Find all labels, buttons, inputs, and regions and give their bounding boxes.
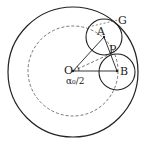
label-angle: α₀/2: [66, 76, 84, 86]
label-a: A: [96, 25, 106, 38]
geometry-diagram: A B O P G α₀/2: [0, 0, 146, 143]
point-b: [116, 70, 118, 72]
label-b: B: [120, 65, 128, 78]
label-g: G: [118, 14, 127, 27]
label-p: P: [109, 43, 117, 56]
